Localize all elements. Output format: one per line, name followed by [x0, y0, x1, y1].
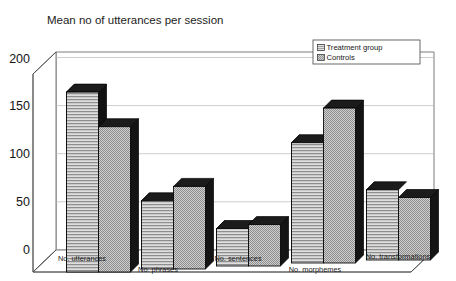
x-tick-no-morphemes: No. morphemes — [289, 265, 342, 274]
legend-swatch-controls-icon — [318, 55, 325, 61]
legend-swatch-treatment-icon — [318, 45, 325, 51]
x-tick-no-sentences: No. sentences — [214, 254, 262, 263]
chart-legend[interactable]: Treatment group Controls — [313, 40, 420, 64]
x-tick-no-phrases: No. phrases — [138, 265, 178, 274]
y-tick-50: 50 — [16, 195, 30, 209]
y-tick-0: 0 — [23, 243, 30, 257]
x-tick-no-utterances: No. utterances — [58, 254, 106, 263]
left-wall — [33, 52, 56, 272]
bar-chart-figure: 200 150 100 50 0 — [0, 0, 456, 281]
legend-label-controls: Controls — [327, 53, 355, 62]
bar-controls-2[interactable] — [174, 178, 214, 269]
legend-label-treatment: Treatment group — [327, 43, 383, 52]
x-tick-no-transformations: No. transformations — [366, 252, 431, 261]
legend-item-treatment-group[interactable]: Treatment group — [318, 43, 383, 52]
bar-controls-1[interactable] — [99, 119, 139, 272]
chart-title: Mean no of utterances per session — [47, 14, 223, 26]
bar-controls-5[interactable] — [399, 190, 439, 261]
bar-controls-4[interactable] — [324, 100, 364, 263]
bar-group-no-transformations — [367, 182, 439, 260]
y-tick-150: 150 — [9, 99, 30, 113]
y-tick-labels: 200 150 100 50 0 — [9, 52, 30, 257]
y-tick-100: 100 — [9, 147, 30, 161]
y-tick-200: 200 — [9, 52, 30, 66]
chart-container: 200 150 100 50 0 — [0, 0, 456, 281]
